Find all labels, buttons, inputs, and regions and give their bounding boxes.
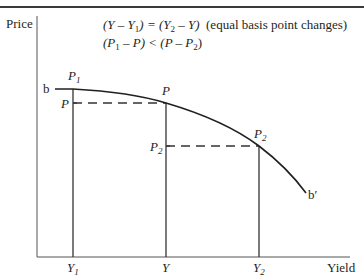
curve-end-label: b′ — [308, 188, 317, 201]
point-p-label: P — [162, 84, 170, 97]
price-yield-curve — [55, 89, 306, 193]
formula-note: (equal basis point changes) — [206, 17, 347, 32]
price-p-tick-label: P — [61, 97, 69, 110]
equal-yield-change-formula: (Y – Y1) = (Y2 – Y) (equal basis point c… — [103, 18, 347, 31]
yield-y2-label: Y2 — [253, 261, 265, 274]
price-p2-tick-label: P2 — [150, 140, 162, 153]
point-p1-label: P1 — [68, 69, 80, 82]
yield-y-label: Y — [162, 261, 169, 274]
x-axis-label: Yield — [327, 261, 355, 274]
yield-y1-label: Y1 — [67, 261, 79, 274]
point-p2-label: P2 — [254, 127, 266, 140]
curve-start-label: b — [43, 82, 50, 95]
price-change-inequality: (P1 – P) < (P – P2) — [103, 36, 202, 49]
y-axis-label: Price — [6, 17, 33, 30]
